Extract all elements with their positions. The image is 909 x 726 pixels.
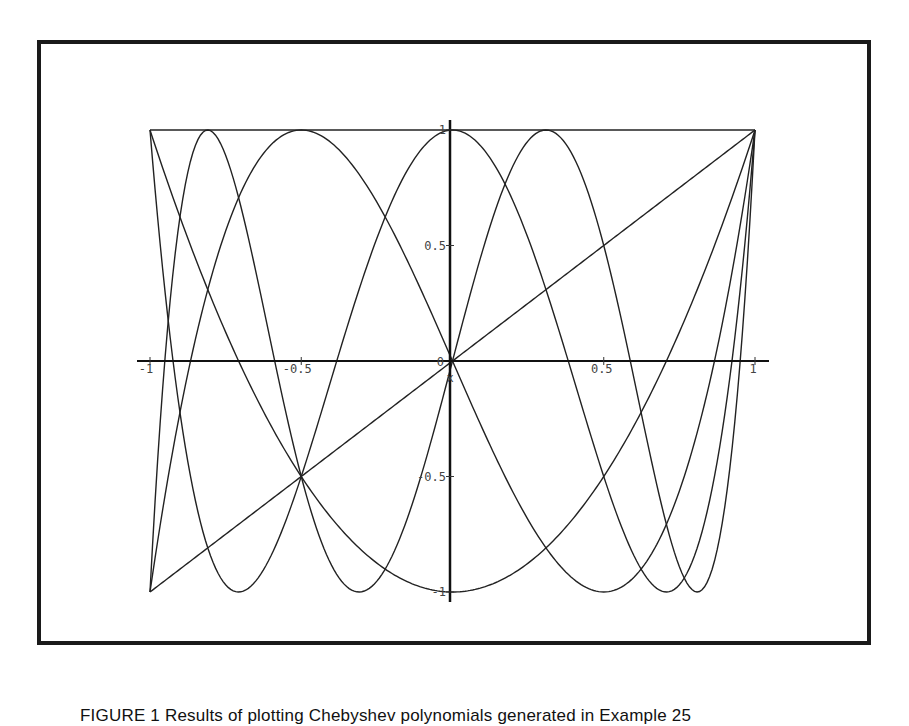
x-axis-label: x [446,371,453,385]
x-tick-label: -1 [139,362,153,376]
x-tick-label: 0.5 [591,362,613,376]
x-tick-label: 1 [749,362,756,376]
y-tick-label: -1 [432,585,446,599]
x-tick-label: 0 [437,355,444,369]
y-tick-label: -0.5 [417,470,446,484]
y-tick-label: 0.5 [424,239,446,253]
x-tick-label: -0.5 [283,362,312,376]
figure-caption: FIGURE 1 Results of plotting Chebyshev p… [80,706,840,726]
y-tick-label: 1 [439,123,446,137]
